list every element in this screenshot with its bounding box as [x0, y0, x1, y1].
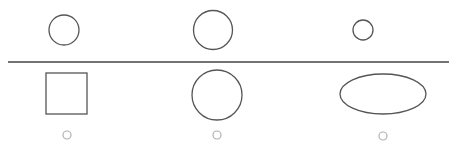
- option-circle-shape[interactable]: [192, 70, 242, 120]
- top-circle-small-left-shape: [49, 15, 79, 45]
- option-square-shape[interactable]: [46, 73, 87, 114]
- bottom-row-options: [46, 70, 426, 120]
- marker-ellipse-radio[interactable]: [379, 132, 387, 140]
- top-circle-tiny-right-shape: [353, 20, 373, 40]
- marker-circle-radio[interactable]: [213, 131, 221, 139]
- top-circle-large-middle-shape: [194, 11, 233, 50]
- marker-square-radio[interactable]: [63, 131, 71, 139]
- option-markers: [63, 131, 387, 140]
- diagram-canvas: [0, 0, 452, 148]
- top-row-shapes: [49, 11, 373, 50]
- diagram-svg: [0, 0, 452, 148]
- option-ellipse-shape[interactable]: [340, 74, 426, 114]
